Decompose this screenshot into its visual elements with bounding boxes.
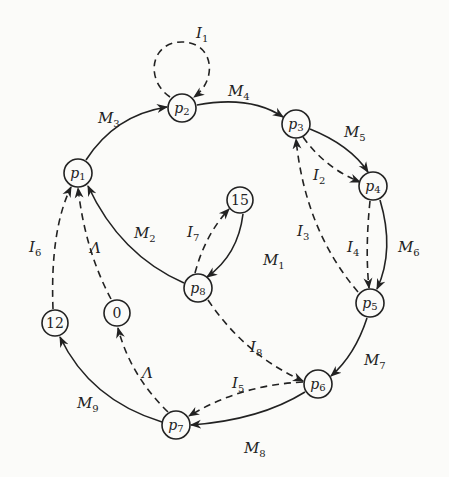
node-p7: p7 bbox=[162, 411, 190, 439]
label-M6: M6 bbox=[397, 238, 420, 258]
edge-I7-p8-n15 bbox=[195, 209, 229, 273]
edge-M6-p4-p5 bbox=[377, 200, 387, 289]
svg-text:15: 15 bbox=[231, 192, 249, 208]
label-M5: M5 bbox=[343, 123, 366, 143]
label-I8: I8 bbox=[249, 338, 262, 358]
edge-I6-n12-p1 bbox=[53, 187, 71, 309]
label-M7: M7 bbox=[363, 351, 386, 371]
edge-M4-p2-p3 bbox=[197, 102, 283, 117]
label-I1: I1 bbox=[195, 24, 208, 44]
node-0: 0 bbox=[104, 300, 130, 326]
node-p3: p3 bbox=[282, 110, 310, 138]
node-p2: p2 bbox=[168, 94, 196, 122]
label-I6: I6 bbox=[28, 238, 41, 258]
edge-I2-p3-p4 bbox=[303, 137, 360, 182]
label-I5: I5 bbox=[231, 374, 244, 394]
edge-I4-p4-p5 bbox=[367, 201, 370, 288]
node-p1: p1 bbox=[64, 159, 92, 187]
node-p5: p5 bbox=[356, 289, 384, 317]
edge-M7-p5-p6 bbox=[331, 318, 367, 376]
label-M1: M1 bbox=[262, 251, 285, 271]
node-p8: p8 bbox=[184, 274, 212, 302]
node-12: 12 bbox=[42, 310, 68, 336]
edge-M1-n15-p8 bbox=[207, 214, 243, 277]
node-p4: p4 bbox=[359, 172, 387, 200]
label-M9: M9 bbox=[76, 394, 99, 414]
node-p6: p6 bbox=[304, 370, 332, 398]
edge-I5-p6-p7 bbox=[189, 382, 303, 416]
label-lambda-lower: Λ bbox=[140, 364, 153, 382]
label-M8: M8 bbox=[243, 439, 266, 459]
svg-text:0: 0 bbox=[113, 305, 122, 321]
edge-I3-p5-p3 bbox=[296, 139, 358, 292]
edge-M8-p6-p7 bbox=[191, 392, 305, 425]
label-I3: I3 bbox=[296, 222, 309, 242]
label-M4: M4 bbox=[227, 82, 250, 102]
label-I4: I4 bbox=[346, 238, 359, 258]
label-I2: I2 bbox=[312, 166, 325, 186]
label-M3: M3 bbox=[97, 109, 120, 129]
label-lambda-upper: Λ bbox=[88, 239, 101, 257]
label-I7: I7 bbox=[186, 223, 199, 243]
edge-I1-p2-loop bbox=[154, 42, 209, 97]
svg-text:12: 12 bbox=[46, 315, 64, 331]
label-M2: M2 bbox=[133, 224, 156, 244]
node-15: 15 bbox=[227, 187, 253, 213]
state-diagram: p1 p2 p3 p4 p5 p6 p7 p8 15 12 0 I1 M3 bbox=[0, 0, 449, 477]
